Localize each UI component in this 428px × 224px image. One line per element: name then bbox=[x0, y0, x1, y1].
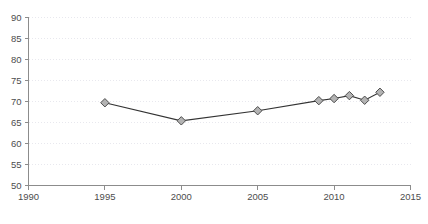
data-point-marker-2012[interactable] bbox=[360, 96, 368, 104]
y-tick-label-85: 85 bbox=[11, 33, 22, 44]
data-series bbox=[101, 88, 384, 125]
y-tick-label-50: 50 bbox=[11, 180, 22, 191]
data-point-marker-1995[interactable] bbox=[101, 99, 109, 107]
y-axis: 505560657075808590 bbox=[11, 12, 29, 191]
x-axis: 199019952000200520102015 bbox=[18, 186, 421, 203]
y-tick-label-60: 60 bbox=[11, 138, 22, 149]
data-point-marker-2011[interactable] bbox=[345, 91, 353, 99]
y-tick-label-55: 55 bbox=[11, 159, 22, 170]
series-line-0 bbox=[105, 92, 380, 121]
y-tick-label-75: 75 bbox=[11, 75, 22, 86]
y-tick-label-65: 65 bbox=[11, 117, 22, 128]
x-tick-label-2005: 2005 bbox=[247, 191, 268, 202]
y-tick-label-70: 70 bbox=[11, 96, 22, 107]
line-chart: 505560657075808590 199019952000200520102… bbox=[0, 0, 428, 224]
data-point-marker-2010[interactable] bbox=[330, 94, 338, 102]
y-tick-label-90: 90 bbox=[11, 12, 22, 23]
chart-canvas: 505560657075808590 199019952000200520102… bbox=[0, 0, 428, 224]
data-point-marker-2009[interactable] bbox=[315, 96, 323, 104]
data-point-marker-2013[interactable] bbox=[376, 88, 384, 96]
x-tick-label-2015: 2015 bbox=[400, 191, 421, 202]
data-point-marker-2005[interactable] bbox=[254, 107, 262, 115]
x-tick-label-2010: 2010 bbox=[324, 191, 345, 202]
gridlines bbox=[29, 18, 411, 165]
data-point-marker-2000[interactable] bbox=[177, 117, 185, 125]
y-tick-label-80: 80 bbox=[11, 54, 22, 65]
x-tick-label-1990: 1990 bbox=[18, 191, 39, 202]
x-tick-label-1995: 1995 bbox=[94, 191, 115, 202]
x-tick-label-2000: 2000 bbox=[171, 191, 192, 202]
